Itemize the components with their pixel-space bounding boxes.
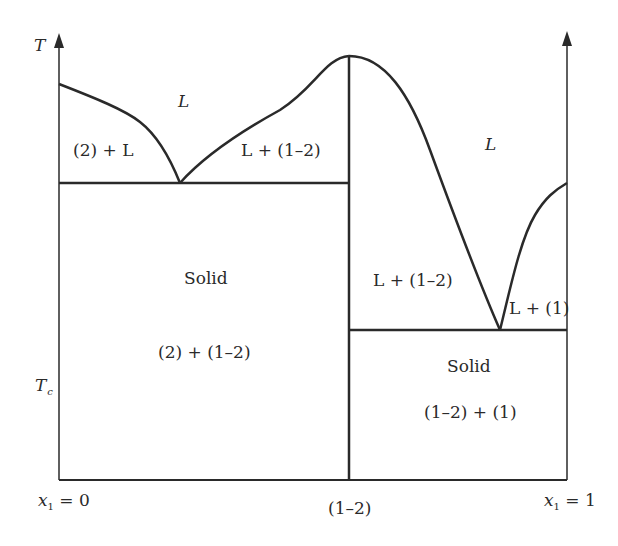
left-axis-arrow-icon xyxy=(54,33,64,48)
liquidus-left-branch xyxy=(59,84,180,183)
tc-marker-label: Tc xyxy=(35,375,53,397)
y-axis-label: T xyxy=(34,35,47,55)
region-liquid-plus-one: L + (1) xyxy=(509,298,569,318)
region-solid-left-title: Solid xyxy=(184,268,228,288)
x-left-label: x1 = 0 xyxy=(38,490,90,512)
region-two-plus-liquid: (2) + L xyxy=(73,140,133,160)
region-liquid-plus-compound-left: L + (1–2) xyxy=(241,140,321,160)
x-compound-label: (1–2) xyxy=(328,498,371,518)
right-axis-arrow-icon xyxy=(562,31,572,46)
region-solid-right-phases: (1–2) + (1) xyxy=(424,402,517,422)
region-liquid-left: L xyxy=(177,91,189,111)
phase-diagram: T Tc x1 = 0 (1–2) x1 = 1 L L (2) + L L +… xyxy=(0,0,618,546)
region-liquid-plus-compound-right: L + (1–2) xyxy=(373,270,453,290)
x-right-label: x1 = 1 xyxy=(544,490,596,512)
region-liquid-right: L xyxy=(484,134,496,154)
region-solid-right-title: Solid xyxy=(447,356,491,376)
region-solid-left-phases: (2) + (1–2) xyxy=(158,342,251,362)
liquidus-compound-left xyxy=(180,56,349,183)
